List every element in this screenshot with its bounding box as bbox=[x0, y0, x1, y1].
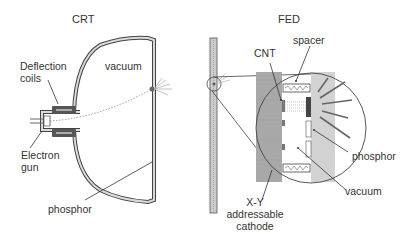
crt-vs-fed-diagram: CRT Deflection coils vacuum Electron gun… bbox=[0, 0, 411, 241]
crt-title: CRT bbox=[72, 13, 94, 25]
label-cnt: CNT bbox=[254, 47, 276, 59]
label-spacer: spacer bbox=[293, 34, 325, 46]
label-electron-gun: Electron gun bbox=[21, 149, 60, 173]
spacer-top bbox=[283, 84, 310, 92]
label-vacuum-fed: vacuum bbox=[345, 185, 382, 197]
phosphor-plate bbox=[311, 72, 335, 182]
spacer-bottom bbox=[283, 164, 310, 172]
label-phosphor-fed: phosphor bbox=[352, 150, 396, 162]
label-vacuum-crt: vacuum bbox=[105, 60, 142, 72]
fed-title: FED bbox=[278, 13, 300, 25]
label-phosphor-crt: phosphor bbox=[48, 203, 92, 215]
label-deflection-coils: Deflection coils bbox=[20, 60, 67, 84]
cathode-plate bbox=[256, 72, 282, 182]
fed-zoom-detail bbox=[256, 46, 366, 200]
label-xy-cathode: X-Y addressable cathode bbox=[222, 196, 288, 232]
